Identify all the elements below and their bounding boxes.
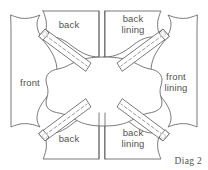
notch-top-left [43,32,48,37]
notch-bottom-right [161,134,166,139]
notch-bottom-left [43,134,48,139]
pattern-drawing [0,0,208,170]
notch-top-right [161,32,166,37]
pattern-diagram: back back lining front front lining back… [0,0,208,170]
piece-back-lining-top [105,11,161,57]
diagram-caption: Diag 2 [175,156,202,166]
